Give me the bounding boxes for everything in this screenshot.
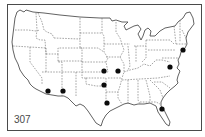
marker-new-england-coast <box>180 47 185 52</box>
marker-southwest-new-mexico <box>60 88 65 93</box>
marker-eastern-oklahoma <box>101 82 106 87</box>
figure-number: 307 <box>14 114 31 125</box>
marker-central-missouri <box>115 68 120 73</box>
marker-florida <box>159 106 164 111</box>
us-outline <box>12 10 194 126</box>
marker-east-texas <box>104 100 109 105</box>
marker-eastern-kansas <box>101 68 106 73</box>
marker-southeast-arizona <box>45 88 50 93</box>
marker-maryland-virginia <box>167 64 172 69</box>
